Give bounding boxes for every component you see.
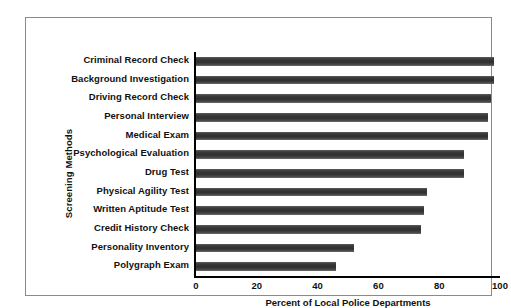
x-tick-label: 80	[434, 280, 445, 291]
bar	[196, 225, 421, 234]
y-axis-title: Screening Methods	[63, 94, 74, 254]
bar	[196, 113, 488, 122]
bar	[196, 244, 354, 253]
plot-area: Criminal Record CheckBackground Investig…	[196, 52, 500, 276]
bar	[196, 76, 494, 85]
bar	[196, 206, 424, 215]
category-label: Driving Record Check	[89, 91, 189, 102]
bar	[196, 94, 491, 103]
chart-frame: Screening Methods Criminal Record CheckB…	[25, 17, 492, 296]
category-label: Medical Exam	[126, 129, 189, 140]
bar	[196, 262, 336, 271]
category-label: Personality Inventory	[91, 241, 189, 252]
bar	[196, 169, 464, 178]
category-label: Personal Interview	[104, 110, 189, 121]
bar	[196, 57, 494, 66]
category-label: Credit History Check	[94, 222, 189, 233]
x-axis-line	[194, 276, 500, 278]
category-label: Polygraph Exam	[114, 259, 189, 270]
category-label: Criminal Record Check	[83, 54, 189, 65]
category-label: Background Investigation	[71, 73, 189, 84]
bar	[196, 132, 488, 141]
x-tick-label: 0	[193, 280, 198, 291]
category-label: Written Aptitude Test	[93, 203, 189, 214]
x-tick-label: 20	[252, 280, 263, 291]
x-tick-label: 40	[312, 280, 323, 291]
category-label: Drug Test	[145, 166, 189, 177]
bar	[196, 150, 464, 159]
x-axis-title: Percent of Local Police Departments	[196, 297, 500, 308]
y-axis-line	[194, 52, 196, 276]
x-tick-label: 60	[373, 280, 384, 291]
x-tick-label: 100	[492, 280, 508, 291]
category-label: Physical Agility Test	[97, 185, 189, 196]
category-label: Psychological Evaluation	[73, 147, 189, 158]
bar	[196, 188, 427, 197]
